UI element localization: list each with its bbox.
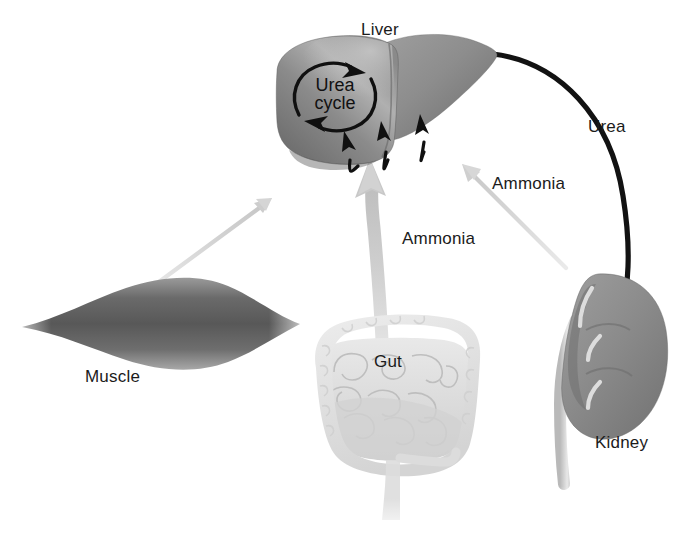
arrow-gut-to-liver (355, 158, 386, 340)
flow-label-ammonia-gut: Ammonia (402, 229, 475, 249)
urea-cycle-label-line2: cycle (292, 94, 378, 112)
flow-label-ammonia-kidney: Ammonia (492, 174, 565, 194)
organ-label-muscle: Muscle (85, 367, 140, 387)
diagram-canvas: Liver Urea Ammonia Ammonia Muscle Gut Ki… (0, 0, 693, 537)
organ-gut (315, 315, 480, 537)
organ-muscle (0, 270, 320, 370)
organ-label-kidney: Kidney (595, 433, 648, 453)
urea-cycle-label: Urea cycle (292, 76, 378, 113)
organ-label-liver: Liver (361, 20, 399, 40)
organ-label-gut: Gut (374, 352, 402, 372)
urea-cycle-label-line1: Urea (292, 76, 378, 94)
organ-kidney (540, 274, 668, 512)
flow-label-urea: Urea (588, 117, 626, 137)
